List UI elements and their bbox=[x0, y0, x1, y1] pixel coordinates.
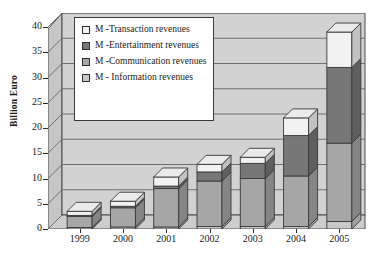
bar-segment bbox=[110, 208, 135, 227]
bar-segment bbox=[284, 136, 309, 176]
legend-label-information: M - Information revenues bbox=[95, 72, 193, 83]
bar-segment bbox=[327, 67, 352, 143]
bar-segment bbox=[110, 201, 135, 206]
bar-segment bbox=[240, 157, 265, 163]
bar-segment bbox=[154, 177, 179, 186]
bar-segment bbox=[327, 32, 352, 67]
bar-segment bbox=[67, 211, 92, 215]
legend-swatch-communication bbox=[82, 58, 90, 66]
x-tick-label: 2002 bbox=[190, 233, 230, 244]
bar-segment bbox=[197, 164, 222, 172]
legend-item: M -Transaction revenues bbox=[82, 24, 208, 35]
legend-item: M - Information revenues bbox=[82, 72, 208, 83]
bar-segment bbox=[327, 143, 352, 221]
x-tick-mark bbox=[123, 229, 124, 233]
bar-segment bbox=[67, 216, 92, 227]
x-tick-mark bbox=[210, 229, 211, 233]
y-axis-title: Billion Euro bbox=[9, 61, 19, 141]
y-tick-label: 35 bbox=[22, 46, 42, 56]
y-tick-mark bbox=[43, 229, 48, 230]
x-tick-label: 2000 bbox=[103, 233, 143, 244]
bar-segment bbox=[197, 181, 222, 226]
y-tick-label: 10 bbox=[22, 173, 42, 183]
legend-item: M -Communication revenues bbox=[82, 56, 208, 67]
legend-label-entertainment: M -Entertainment revenues bbox=[95, 40, 199, 51]
x-tick-label: 2005 bbox=[319, 233, 359, 244]
legend-swatch-entertainment bbox=[82, 42, 90, 50]
bar-segment bbox=[284, 176, 309, 227]
chart-container: Billion Euro 4035302520151050 1999200020… bbox=[0, 0, 385, 261]
y-tick-label: 30 bbox=[22, 72, 42, 82]
x-tick-label: 2004 bbox=[276, 233, 316, 244]
chart-legend: M -Transaction revenues M -Entertainment… bbox=[74, 17, 214, 121]
legend-item: M -Entertainment revenues bbox=[82, 40, 208, 51]
bar-segment bbox=[197, 172, 222, 181]
bar-segment bbox=[240, 163, 265, 178]
bar-segment bbox=[327, 221, 352, 229]
y-tick-label: 15 bbox=[22, 147, 42, 157]
legend-label-communication: M -Communication revenues bbox=[95, 56, 206, 67]
legend-swatch-information bbox=[82, 74, 90, 82]
x-tick-mark bbox=[166, 229, 167, 233]
legend-swatch-transaction bbox=[82, 26, 90, 34]
x-tick-mark bbox=[253, 229, 254, 233]
bar-segment bbox=[284, 118, 309, 136]
legend-label-transaction: M -Transaction revenues bbox=[95, 24, 190, 35]
y-tick-label: 40 bbox=[22, 21, 42, 31]
x-tick-mark bbox=[339, 229, 340, 233]
y-axis-ticks: 4035302520151050 bbox=[22, 0, 42, 261]
y-tick-label: 0 bbox=[22, 223, 42, 233]
y-tick-label: 25 bbox=[22, 97, 42, 107]
x-tick-mark bbox=[296, 229, 297, 233]
bar-segment bbox=[154, 189, 179, 227]
x-tick-mark bbox=[80, 229, 81, 233]
x-tick-label: 2001 bbox=[146, 233, 186, 244]
y-tick-label: 5 bbox=[22, 198, 42, 208]
x-tick-label: 1999 bbox=[60, 233, 100, 244]
x-tick-label: 2003 bbox=[233, 233, 273, 244]
y-tick-label: 20 bbox=[22, 122, 42, 132]
bar-segment bbox=[240, 179, 265, 227]
